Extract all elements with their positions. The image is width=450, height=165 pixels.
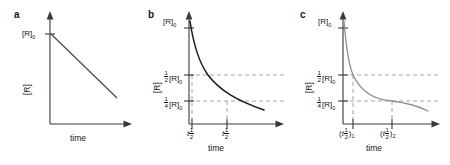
x-tick-label-c-halflife-1: (t12)1: [339, 127, 355, 141]
curve-c-second-order: [344, 21, 428, 111]
y-axis-label-a: [R]: [22, 84, 32, 95]
panel-c: c [R] [R]0 12[R]0 14[R]0 (t12)1 (t12)2 t…: [296, 0, 450, 165]
x-axis-arrowhead-b: [276, 121, 285, 128]
panel-letter-b: b: [148, 10, 154, 20]
x-axis-label-b: time: [208, 143, 224, 153]
curve-b-first-order: [190, 21, 264, 110]
panel-letter-a: a: [14, 10, 20, 20]
curve-a-zero-order: [51, 34, 117, 98]
y-tick-label-b-quarter: 14[R]0: [164, 96, 182, 111]
x-axis-arrowhead-c: [432, 121, 441, 128]
y-tick-label-b-half: 12[R]0: [164, 70, 182, 85]
y-tick-label-c-half: 12[R]0: [317, 70, 335, 85]
y-tick-label-a-r0: [R]0: [22, 29, 35, 40]
y-axis-label-b: [R]: [152, 82, 162, 93]
kinetics-figure: a [R] [R]0 time b [R] [R]0 12[R]0 14[R]0…: [0, 0, 450, 165]
x-tick-label-b-halflife-2: t12: [222, 127, 229, 141]
y-axis-label-c: [R]: [304, 82, 314, 93]
y-tick-label-b-r0: [R]0: [163, 17, 176, 28]
x-axis-arrowhead-a: [124, 121, 133, 128]
x-tick-label-c-halflife-2: (t12)2: [380, 127, 396, 141]
x-axis-label-c: time: [366, 143, 382, 153]
y-axis-arrowhead-b: [186, 11, 193, 20]
panel-a: a [R] [R]0 time: [0, 0, 150, 165]
y-axis-arrowhead-a: [47, 11, 54, 20]
x-axis-label-a: time: [70, 133, 86, 143]
y-tick-label-c-r0: [R]0: [318, 17, 331, 28]
panel-b: b [R] [R]0 12[R]0 14[R]0 t12 t12 time: [146, 0, 298, 165]
y-tick-label-c-quarter: 14[R]0: [317, 96, 335, 111]
panel-letter-c: c: [300, 10, 306, 20]
x-tick-label-b-halflife-1: t12: [187, 127, 194, 141]
y-axis-arrowhead-c: [340, 11, 347, 20]
